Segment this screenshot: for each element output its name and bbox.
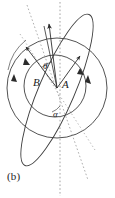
angle-alpha-label: α xyxy=(53,110,58,119)
arrow-outer-left-icon xyxy=(11,74,17,82)
figure-diagram xyxy=(0,0,115,198)
vector-a-label: A xyxy=(62,79,69,90)
arrow-inner-left-icon xyxy=(23,58,30,65)
figure-panel-b: A B θ α (b) xyxy=(0,0,115,198)
figure-caption: (b) xyxy=(7,170,20,182)
angle-theta-label: θ xyxy=(43,62,47,71)
vector-b-label: B xyxy=(33,77,40,88)
ellipse-chord-line xyxy=(20,34,95,150)
motion-arc-left xyxy=(8,40,26,70)
inclined-ellipse xyxy=(8,7,105,172)
